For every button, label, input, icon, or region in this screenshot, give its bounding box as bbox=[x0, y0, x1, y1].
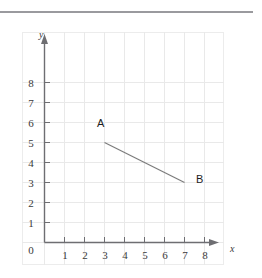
x-tick-label-7: 7 bbox=[178, 250, 192, 261]
origin-tick-label: 0 bbox=[24, 245, 38, 256]
y-tick-label-2: 2 bbox=[24, 198, 38, 209]
y-tick-label-4: 4 bbox=[24, 158, 38, 169]
y-tick-label-8: 8 bbox=[24, 78, 38, 89]
page-root: y x 8 7 6 5 4 3 2 1 0 1 2 3 4 5 6 7 8 A … bbox=[0, 0, 262, 278]
y-tick-label-5: 5 bbox=[24, 138, 38, 149]
point-label-b: B bbox=[196, 174, 203, 185]
top-divider bbox=[0, 11, 253, 13]
y-tick-label-7: 7 bbox=[24, 98, 38, 109]
x-tick-label-5: 5 bbox=[138, 250, 152, 261]
y-tick-label-1: 1 bbox=[24, 218, 38, 229]
x-tick-label-2: 2 bbox=[78, 250, 92, 261]
x-tick-label-4: 4 bbox=[118, 250, 132, 261]
y-axis-label: y bbox=[39, 30, 43, 40]
x-tick-label-6: 6 bbox=[158, 250, 172, 261]
y-tick-label-6: 6 bbox=[24, 118, 38, 129]
x-axis-label: x bbox=[230, 244, 234, 254]
y-tick-label-3: 3 bbox=[24, 178, 38, 189]
x-tick-label-8: 8 bbox=[198, 250, 212, 261]
x-tick-label-1: 1 bbox=[58, 250, 72, 261]
x-tick-label-3: 3 bbox=[98, 250, 112, 261]
plot-frame bbox=[22, 32, 224, 265]
point-label-a: A bbox=[97, 118, 104, 129]
